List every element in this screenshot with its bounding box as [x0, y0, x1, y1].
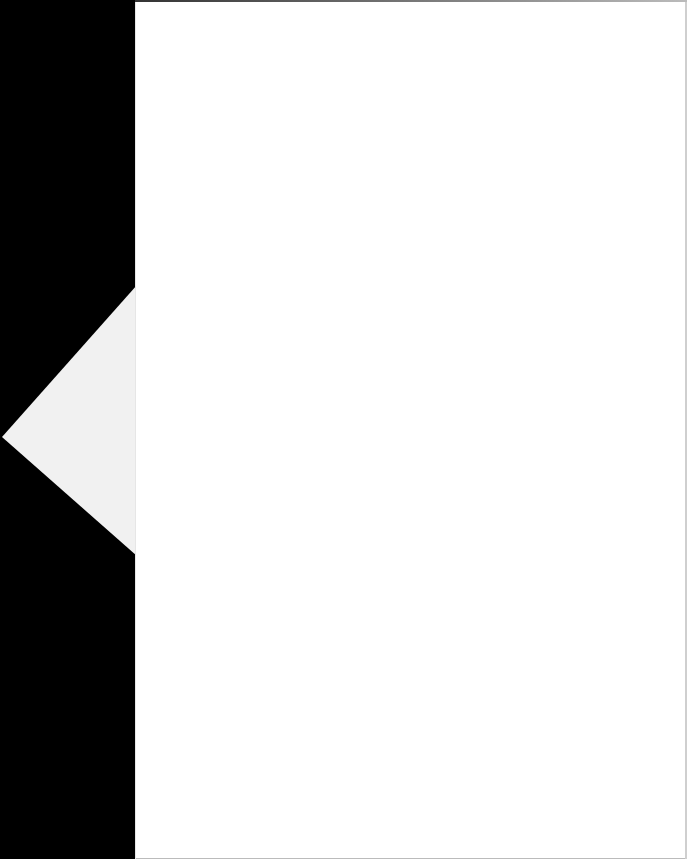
blank-page	[135, 0, 687, 859]
page-top-edge	[135, 0, 687, 2]
